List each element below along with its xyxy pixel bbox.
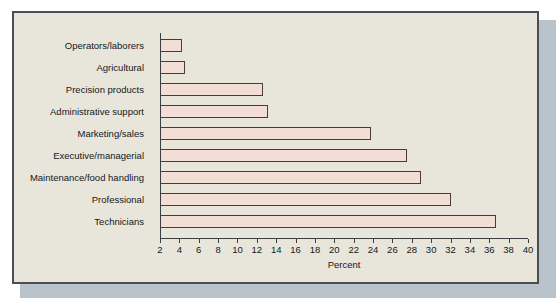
bars-container (160, 39, 530, 235)
category-label-professional: Professional (92, 193, 144, 206)
x-tick-22 (354, 239, 355, 243)
category-label-executive-managerial: Executive/managerial (53, 149, 144, 162)
category-label-marketing-sales: Marketing/sales (77, 127, 144, 140)
x-tick-label-36: 36 (484, 244, 495, 255)
x-axis-line (160, 238, 528, 239)
bar-chart-panel: Operators/laborers Agricultural Precisio… (12, 11, 539, 284)
x-tick-30 (431, 239, 432, 243)
x-tick-16 (296, 239, 297, 243)
bar-executive-managerial (160, 149, 407, 162)
x-tick-40 (528, 239, 529, 243)
x-tick-24 (373, 239, 374, 243)
x-tick-label-40: 40 (523, 244, 534, 255)
bar-agricultural (160, 61, 185, 74)
x-tick-32 (451, 239, 452, 243)
x-tick-label-28: 28 (406, 244, 417, 255)
x-tick-14 (276, 239, 277, 243)
bar-operators-laborers (160, 39, 182, 52)
x-tick-label-26: 26 (387, 244, 398, 255)
bar-technicians (160, 215, 496, 228)
bar-professional (160, 193, 451, 206)
x-tick-label-4: 4 (177, 244, 182, 255)
x-tick-label-32: 32 (445, 244, 456, 255)
x-tick-label-2: 2 (157, 244, 162, 255)
x-tick-label-38: 38 (503, 244, 514, 255)
category-label-precision-products: Precision products (66, 83, 144, 96)
x-tick-8 (218, 239, 219, 243)
figure-root: Operators/laborers Agricultural Precisio… (0, 0, 560, 301)
bar-precision-products (160, 83, 263, 96)
x-tick-36 (489, 239, 490, 243)
x-tick-label-14: 14 (271, 244, 282, 255)
x-tick-4 (179, 239, 180, 243)
x-tick-10 (237, 239, 238, 243)
x-tick-26 (392, 239, 393, 243)
category-label-administrative-support: Administrative support (50, 105, 144, 118)
category-label-maintenance-food-handling: Maintenance/food handling (30, 171, 144, 184)
y-axis-line (160, 33, 161, 238)
bar-administrative-support (160, 105, 268, 118)
x-tick-label-22: 22 (348, 244, 359, 255)
category-label-technicians: Technicians (94, 215, 144, 228)
x-tick-label-34: 34 (465, 244, 476, 255)
x-tick-18 (315, 239, 316, 243)
x-tick-2 (160, 239, 161, 243)
x-tick-12 (257, 239, 258, 243)
category-label-agricultural: Agricultural (96, 61, 144, 74)
x-tick-20 (334, 239, 335, 243)
x-tick-label-6: 6 (196, 244, 201, 255)
x-tick-label-30: 30 (426, 244, 437, 255)
bar-marketing-sales (160, 127, 371, 140)
x-tick-label-12: 12 (252, 244, 263, 255)
category-axis-labels: Operators/laborers Agricultural Precisio… (14, 39, 148, 235)
category-label-operators-laborers: Operators/laborers (65, 39, 144, 52)
x-tick-6 (199, 239, 200, 243)
x-tick-label-8: 8 (215, 244, 220, 255)
x-tick-label-16: 16 (290, 244, 301, 255)
x-tick-28 (412, 239, 413, 243)
x-tick-38 (509, 239, 510, 243)
bar-maintenance-food-handling (160, 171, 421, 184)
x-axis-title: Percent (160, 259, 528, 270)
plot-area: Operators/laborers Agricultural Precisio… (14, 13, 537, 282)
x-tick-34 (470, 239, 471, 243)
x-tick-label-24: 24 (368, 244, 379, 255)
x-tick-label-10: 10 (232, 244, 243, 255)
x-tick-label-20: 20 (329, 244, 340, 255)
x-tick-label-18: 18 (310, 244, 321, 255)
